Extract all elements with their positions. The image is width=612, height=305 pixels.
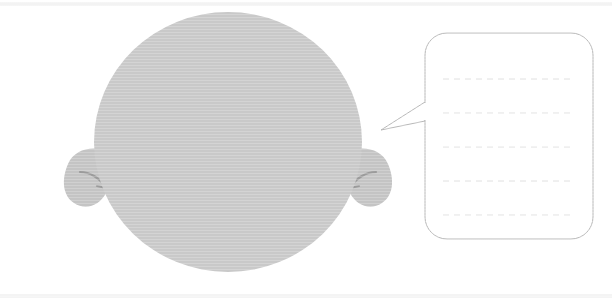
illustration-canvas — [0, 0, 612, 305]
top-edge-band — [0, 2, 612, 6]
bottom-edge-band — [0, 294, 612, 298]
speech-bubble-body[interactable] — [425, 33, 593, 239]
illustration-svg — [0, 0, 612, 305]
head-shape — [94, 12, 362, 272]
